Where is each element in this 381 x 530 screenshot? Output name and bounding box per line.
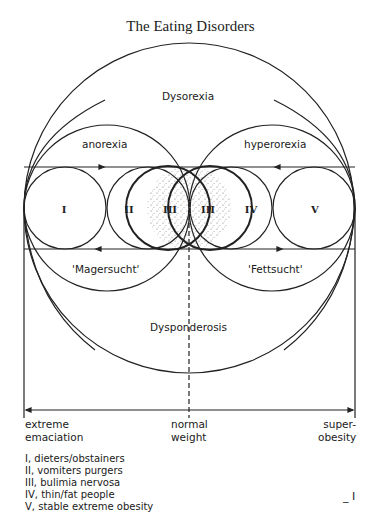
legend-item: V, stable extreme obesity <box>25 501 153 513</box>
scale-right-line1: super- <box>318 418 356 431</box>
circle-label-ii: II <box>124 204 133 215</box>
legend: I, dieters/obstainers II, vomiters purge… <box>25 453 153 513</box>
label-magersucht: 'Magersucht' <box>72 263 139 275</box>
label-fettsucht: 'Fettsucht' <box>248 263 303 275</box>
scale-center: normal weight <box>171 418 208 444</box>
label-dysponderosis: Dysponderosis <box>150 321 227 333</box>
legend-item: I, dieters/obstainers <box>25 453 153 465</box>
scale-center-line1: normal <box>171 418 208 431</box>
label-hyperorexia: hyperorexia <box>244 138 306 150</box>
scale-right-line2: obesity <box>318 431 356 444</box>
page-mark: _ I <box>343 490 355 503</box>
legend-item: IV, thin/fat people <box>25 489 153 501</box>
circle-label-iv: IV <box>245 204 257 215</box>
circle-label-v: V <box>311 204 319 215</box>
scale-center-line2: weight <box>171 431 208 444</box>
scale-right: super- obesity <box>318 418 356 444</box>
label-dysorexia: Dysorexia <box>162 90 214 102</box>
legend-item: II, vomiters purgers <box>25 465 153 477</box>
scale-left-line1: extreme <box>25 418 83 431</box>
label-anorexia: anorexia <box>82 138 127 150</box>
eating-disorders-diagram: The Eating Disorders <box>0 0 381 530</box>
circle-label-i: I <box>62 204 67 215</box>
legend-item: III, bulimia nervosa <box>25 477 153 489</box>
diagram-lines <box>0 0 381 530</box>
circle-label-iii-right: III <box>201 204 215 215</box>
scale-left: extreme emaciation <box>25 418 83 444</box>
circle-label-iii-left: III <box>163 204 177 215</box>
scale-left-line2: emaciation <box>25 431 83 444</box>
